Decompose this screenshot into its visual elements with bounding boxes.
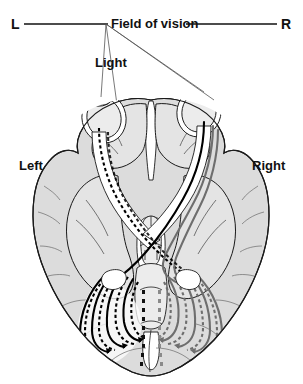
label-field-of-vision: Field of vision: [111, 17, 198, 30]
longitudinal-fissure: [146, 101, 157, 180]
label-left-hemisphere: Left: [19, 159, 43, 172]
label-right-hemisphere: Right: [252, 159, 285, 172]
label-left-field-marker: L: [11, 17, 20, 31]
visual-pathway-diagram: .bfill{fill:#dcdcdc;stroke:#1a1a1a;strok…: [0, 0, 303, 384]
label-right-field-marker: R: [281, 17, 291, 31]
figure-canvas: .bfill{fill:#dcdcdc;stroke:#1a1a1a;strok…: [0, 0, 303, 384]
label-light: Light: [95, 56, 127, 69]
